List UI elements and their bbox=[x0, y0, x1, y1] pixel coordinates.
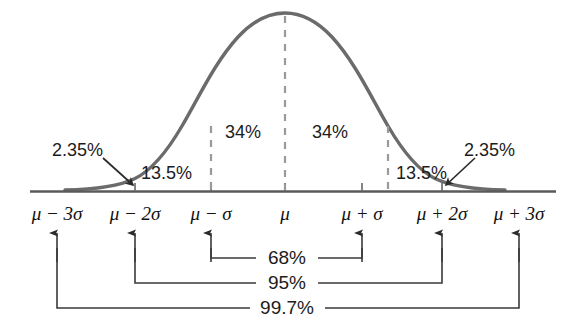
axis-tick-label-mu: μ bbox=[280, 203, 290, 225]
pct-label-left-13-5: 13.5% bbox=[141, 163, 192, 184]
pct-label-left-tail: 2.35% bbox=[52, 140, 103, 161]
pct-label-right-13-5: 13.5% bbox=[396, 163, 447, 184]
axis-tick-label-minus-1-sigma: μ − σ bbox=[190, 203, 231, 225]
axis-tick-label-minus-3-sigma: μ − 3σ bbox=[32, 203, 83, 225]
normal-distribution-diagram: 2.35% 13.5% 34% 34% 13.5% 2.35% μ − 3σ μ… bbox=[0, 0, 584, 331]
pct-label-right-tail: 2.35% bbox=[464, 140, 515, 161]
pct-label-right-34: 34% bbox=[312, 122, 348, 143]
bracket-label-95: 95% bbox=[268, 272, 306, 294]
bracket-label-997: 99.7% bbox=[260, 297, 314, 319]
bracket-label-68: 68% bbox=[268, 247, 306, 269]
dashed-sigma-lines bbox=[211, 16, 388, 190]
axis-tick-label-plus-1-sigma: μ + σ bbox=[341, 203, 382, 225]
axis-tick-label-minus-2-sigma: μ − 2σ bbox=[110, 203, 161, 225]
axis-tick-label-plus-3-sigma: μ + 3σ bbox=[494, 203, 545, 225]
pct-label-left-34: 34% bbox=[225, 122, 261, 143]
axis-tick-label-plus-2-sigma: μ + 2σ bbox=[417, 203, 468, 225]
